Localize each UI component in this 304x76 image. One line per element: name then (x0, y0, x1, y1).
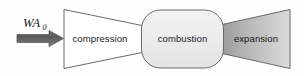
flow-label-subscript: 0 (43, 23, 47, 32)
flow-label-symbol: WA (23, 16, 41, 30)
inlet-flow-label: WA 0 (23, 16, 47, 32)
diagram-canvas: WA 0 compression expansion combustion (0, 0, 304, 76)
stage-label-expansion: expansion (234, 33, 278, 44)
stage-combustion: combustion (142, 10, 224, 68)
engine-flow-diagram: WA 0 compression expansion combustion (0, 0, 304, 76)
inlet-air-mass-flow-arrow (17, 31, 64, 47)
stage-compression: compression (64, 10, 142, 69)
stage-label-compression: compression (73, 33, 128, 44)
stage-expansion: expansion (222, 10, 290, 69)
stage-label-combustion: combustion (158, 33, 208, 44)
arrow-glyph (17, 31, 64, 47)
